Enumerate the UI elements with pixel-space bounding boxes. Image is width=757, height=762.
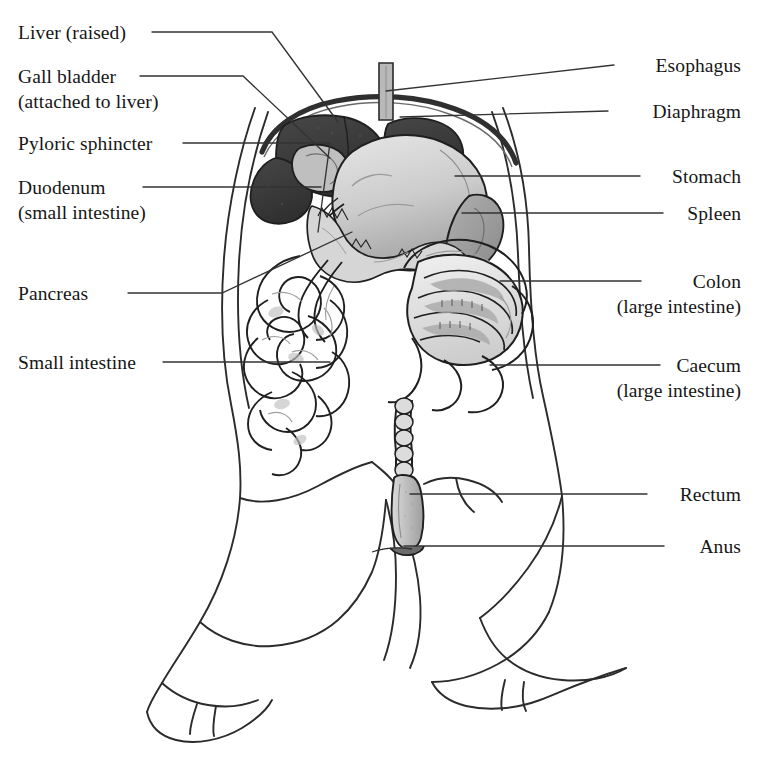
label-colon-sub: (large intestine) [617,294,741,319]
caecum-structure [407,255,523,365]
label-caecum: Caecum (large intestine) [617,353,741,403]
label-diaphragm: Diaphragm [652,99,741,124]
label-diaphragm-text: Diaphragm [652,101,741,122]
small-intestine-structure [244,256,349,475]
label-pyloric-sphincter-text: Pyloric sphincter [18,133,152,154]
label-liver-text: Liver (raised) [18,22,126,43]
label-liver: Liver (raised) [18,20,126,45]
label-pancreas-text: Pancreas [18,283,88,304]
label-spleen: Spleen [687,201,741,226]
label-colon: Colon (large intestine) [617,269,741,319]
label-small-intestine-text: Small intestine [18,352,136,373]
descending-colon-structure [395,398,413,478]
label-gall-bladder-text: Gall bladder [18,66,116,87]
label-duodenum: Duodenum (small intestine) [18,175,146,225]
label-esophagus-text: Esophagus [656,55,741,76]
label-stomach-text: Stomach [672,166,741,187]
label-duodenum-sub: (small intestine) [18,200,146,225]
label-pancreas: Pancreas [18,281,88,306]
label-caecum-sub: (large intestine) [617,378,741,403]
leader-esophagus [386,65,614,91]
label-caecum-text: Caecum [677,355,742,376]
label-esophagus: Esophagus [656,53,741,78]
label-anus: Anus [699,534,741,559]
label-gall-bladder-sub: (attached to liver) [18,89,159,114]
label-colon-text: Colon [693,271,741,292]
label-anus-text: Anus [699,536,741,557]
label-rectum: Rectum [680,482,741,507]
label-gall-bladder: Gall bladder (attached to liver) [18,64,159,114]
label-pyloric-sphincter: Pyloric sphincter [18,131,152,156]
label-spleen-text: Spleen [687,203,741,224]
label-duodenum-text: Duodenum [18,177,105,198]
anatomy-diagram: Liver (raised) Gall bladder (attached to… [0,0,757,762]
label-small-intestine: Small intestine [18,350,136,375]
label-stomach: Stomach [672,164,741,189]
label-rectum-text: Rectum [680,484,741,505]
rectum-structure [392,475,424,549]
